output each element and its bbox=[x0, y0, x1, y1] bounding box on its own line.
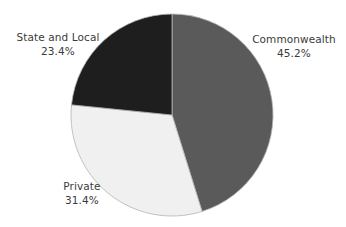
pie-label-state-and-local: State and Local 23.4% bbox=[6, 31, 110, 58]
pie-label-private: Private 31.4% bbox=[46, 180, 118, 207]
pie-label-private-value: 31.4% bbox=[46, 194, 118, 208]
pie-label-commonwealth-value: 45.2% bbox=[246, 47, 342, 61]
pie-label-state-and-local-value: 23.4% bbox=[6, 45, 110, 59]
pie-chart-figure: State and Local 23.4% Commonwealth 45.2%… bbox=[0, 0, 346, 227]
pie-label-state-and-local-name: State and Local bbox=[6, 31, 110, 45]
pie-label-private-name: Private bbox=[46, 180, 118, 194]
pie-label-commonwealth: Commonwealth 45.2% bbox=[246, 33, 342, 60]
pie-label-commonwealth-name: Commonwealth bbox=[246, 33, 342, 47]
pie-slice-state-and-local[interactable] bbox=[72, 14, 172, 115]
